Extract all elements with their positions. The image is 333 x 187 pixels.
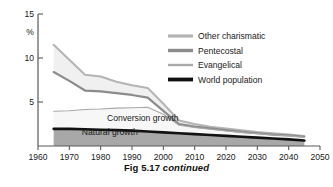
x-tick-label: 1990 [122, 152, 141, 160]
annotation-natural-growth: Natural growth [82, 127, 138, 137]
x-tick-label: 1980 [91, 152, 110, 160]
y-tick-label: 5 [29, 97, 34, 107]
legend-label-world-population: World population [198, 75, 263, 85]
caption-label: Fig 5.17 [124, 162, 160, 173]
x-tick-label: 2050 [310, 152, 329, 160]
chart-legend: Other charismaticPentecostalEvangelicalW… [168, 31, 266, 84]
x-tick-label: 2010 [185, 152, 204, 160]
legend-label-other-charismatic: Other charismatic [198, 31, 266, 41]
x-tick-label: 2020 [216, 152, 235, 160]
area-chart: 51015 1960197019801990200020102020203020… [0, 0, 333, 160]
y-tick-label: 10 [24, 53, 34, 63]
y-tick-label: 15 [24, 9, 34, 19]
x-tick-label: 2040 [279, 152, 298, 160]
x-axis-ticks: 1960197019801990200020102020203020402050 [28, 146, 329, 160]
figure-caption: Fig 5.17 continued [0, 162, 333, 173]
y-axis-label: % [26, 27, 34, 37]
x-tick-label: 2000 [154, 152, 173, 160]
x-tick-label: 2030 [248, 152, 267, 160]
legend-label-pentecostal: Pentecostal [198, 46, 243, 56]
figure-container: 51015 1960197019801990200020102020203020… [0, 0, 333, 187]
caption-continued: continued [163, 162, 209, 173]
legend-label-evangelical: Evangelical [198, 60, 242, 70]
chart-plot-area: 51015 1960197019801990200020102020203020… [0, 0, 333, 160]
y-axis-ticks: 51015 [24, 9, 43, 107]
annotation-conversion-growth: Conversion growth [107, 113, 179, 123]
x-tick-label: 1960 [28, 152, 47, 160]
x-tick-label: 1970 [60, 152, 79, 160]
